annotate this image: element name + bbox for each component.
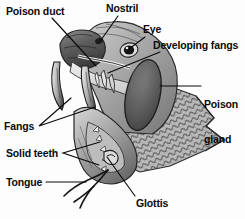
label-poison-gland: Poison gland [204,76,238,168]
label-poison-gland-line1: Poison [204,99,238,111]
label-poison-gland-line2: gland [204,134,238,146]
label-fangs: Fangs [4,121,34,133]
label-developing-fangs: Developing fangs [153,40,238,52]
label-eye: Eye [143,24,161,36]
label-nostril: Nostril [106,3,138,15]
snake-anatomy-diagram: Poison duct Nostril Eye Developing fangs… [0,0,245,219]
label-solid-teeth: Solid teeth [6,148,58,160]
label-tongue: Tongue [6,177,42,189]
label-glottis: Glottis [136,198,168,210]
label-poison-duct: Poison duct [6,6,64,18]
